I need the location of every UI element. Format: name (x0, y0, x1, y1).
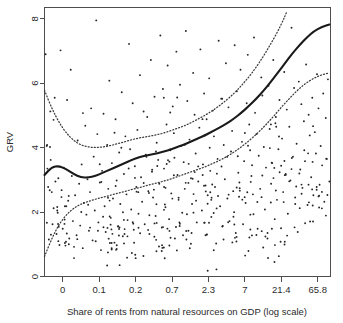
scatter-point (198, 127, 200, 129)
scatter-point (57, 212, 59, 214)
scatter-point (263, 146, 265, 148)
scatter-point (294, 226, 296, 228)
scatter-point (154, 222, 156, 224)
scatter-point (218, 40, 220, 42)
scatter-point (164, 204, 166, 206)
scatter-point (305, 64, 307, 66)
scatter-point (54, 181, 56, 183)
scatter-point (308, 201, 310, 203)
scatter-point (261, 95, 263, 97)
scatter-point (248, 250, 250, 252)
scatter-point (176, 249, 178, 251)
scatter-point (135, 257, 137, 259)
scatter-point (71, 175, 73, 177)
scatter-point (327, 78, 329, 80)
plot-canvas: 02468 00.10.20.72.3721.465.8 Share of re… (0, 0, 343, 323)
scatter-point (308, 114, 310, 116)
scatter-point (286, 109, 288, 111)
scatter-point (179, 223, 181, 225)
scatter-point (76, 234, 78, 236)
scatter-point (232, 190, 234, 192)
scatter-point (119, 264, 121, 266)
scatter-point (169, 112, 171, 114)
scatter-point (74, 194, 76, 196)
scatter-point (110, 224, 112, 226)
scatter-point (78, 183, 80, 185)
scatter-point (308, 184, 310, 186)
scatter-point (206, 118, 208, 120)
x-tick-label: 2.3 (202, 284, 215, 295)
scatter-point (129, 148, 131, 150)
scatter-point (114, 242, 116, 244)
scatter-point (167, 65, 169, 67)
scatter-point (280, 241, 282, 243)
scatter-point (211, 197, 213, 199)
scatter-point (291, 157, 293, 159)
scatter-point (264, 236, 266, 238)
x-tick-label: 0.1 (93, 284, 106, 295)
scatter-point (213, 135, 215, 137)
scatter-point (233, 224, 235, 226)
scatter-point (298, 81, 300, 83)
scatter-point (274, 244, 276, 246)
scatter-point (314, 131, 316, 133)
scatter-point (88, 230, 90, 232)
scatter-point (297, 231, 299, 233)
scatter-point (142, 255, 144, 257)
scatter-point (109, 242, 111, 244)
scatter-point (328, 181, 330, 183)
scatter-point (191, 232, 193, 234)
scatter-point (57, 177, 59, 179)
scatter-point (221, 98, 223, 100)
y-axis-title: GRV (4, 131, 15, 152)
scatter-point (133, 242, 135, 244)
scatter-point (228, 106, 230, 108)
scatter-point (121, 91, 123, 93)
scatter-point (137, 191, 139, 193)
scatter-point (146, 116, 148, 118)
scatter-point (82, 247, 84, 249)
scatter-point (288, 180, 290, 182)
scatter-point (211, 184, 213, 186)
scatter-point (281, 138, 283, 140)
scatter-point (173, 157, 175, 159)
scatter-point (94, 210, 96, 212)
scatter-point (50, 159, 52, 161)
scatter-point (138, 227, 140, 229)
scatter-point (222, 225, 224, 227)
scatter-point (221, 166, 223, 168)
scatter-point (159, 35, 161, 37)
x-tick-label: 65.8 (308, 284, 327, 295)
scatter-point (224, 178, 226, 180)
scatter-point (60, 49, 62, 51)
scatter-point (227, 221, 229, 223)
scatter-point (322, 93, 324, 95)
scatter-point (134, 177, 136, 179)
scatter-point (120, 147, 122, 149)
scatter-point (225, 62, 227, 64)
scatter-point (234, 44, 236, 46)
scatter-point (283, 71, 285, 73)
scatter-point (107, 227, 109, 229)
scatter-point (97, 221, 99, 223)
scatter-point (90, 107, 92, 109)
scatter-point (170, 237, 172, 239)
scatter-point (177, 174, 179, 176)
scatter-point (269, 147, 271, 149)
scatter-point (106, 265, 108, 267)
scatter-points (45, 19, 331, 271)
scatter-point (270, 123, 272, 125)
scatter-point (206, 234, 208, 236)
scatter-point (191, 203, 193, 205)
scatter-point (267, 257, 269, 259)
scatter-point (170, 192, 172, 194)
scatter-point (89, 191, 91, 193)
scatter-point (178, 199, 180, 201)
scatter-point (175, 226, 177, 228)
scatter-point (274, 122, 276, 124)
scatter-point (164, 257, 166, 259)
scatter-point (97, 230, 99, 232)
scatter-point (205, 185, 207, 187)
scatter-point (277, 148, 279, 150)
scatter-point (287, 213, 289, 215)
